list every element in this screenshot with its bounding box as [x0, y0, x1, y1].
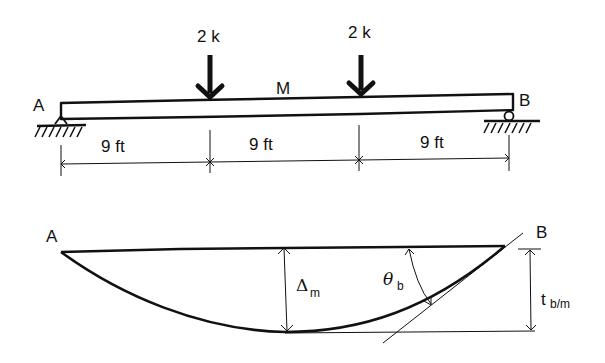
delta-m-subscript: m [310, 286, 320, 300]
load-arrow-1 [198, 55, 222, 97]
deflected-shape-diagram: Δ m θ b t b/m A B [46, 223, 570, 343]
support-a-label: A [33, 96, 45, 115]
curve-a-label: A [46, 227, 58, 246]
delta-m-symbol: Δ [296, 275, 308, 295]
theta-b-symbol: θ [383, 269, 393, 289]
span-1-label: 9 ft [101, 137, 125, 156]
t-bm-symbol: t [541, 290, 546, 309]
max-deflection-dimension [278, 248, 293, 331]
tangent-at-b [383, 233, 523, 343]
t-bm-subscript: b/m [550, 297, 570, 311]
load-2-label: 2 k [348, 23, 371, 42]
span-2-label: 9 ft [249, 135, 273, 154]
elastic-curve [61, 246, 505, 332]
theta-b-subscript: b [397, 279, 404, 293]
loaded-beam: A B 2 k 2 k [33, 23, 540, 176]
load-arrow-2 [349, 55, 373, 94]
beam-diagram: A B 2 k 2 k [0, 0, 605, 363]
span-3-label: 9 ft [420, 133, 444, 152]
support-b-label: B [519, 91, 530, 110]
tangent-deviation-dimension [518, 249, 541, 330]
roller-support-b [484, 112, 540, 134]
curve-b-label: B [536, 223, 547, 242]
midspan-m-label: M [276, 79, 290, 98]
load-1-label: 2 k [197, 27, 220, 46]
theta-b-arc [405, 249, 431, 305]
